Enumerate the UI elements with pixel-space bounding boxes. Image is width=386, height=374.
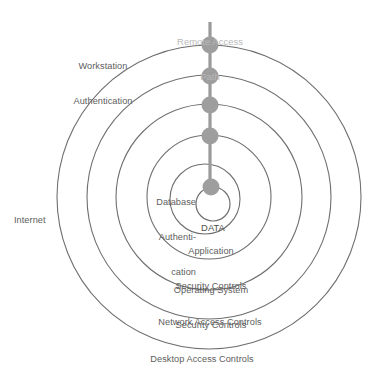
remote-access-path-line-2: Path [150,71,270,83]
label-internet: Internet [14,192,74,250]
remote-access-path-line-1: Remote Access [150,36,270,48]
path-node-application [202,128,219,145]
workstation-line-2: Authentication [48,96,158,108]
internet-line-1: Internet [14,215,74,227]
network-line-1: Network Access Controls [134,317,286,329]
path-node-database [203,179,220,196]
security-layers-diagram: Remote Access Path Workstation Authentic… [0,0,386,374]
workstation-line-1: Workstation [48,61,158,73]
label-desktop-access-controls: Desktop Access Controls [126,331,278,374]
desktop-line-1: Desktop Access Controls [126,354,278,366]
database-line-1: Database [126,197,196,209]
label-workstation-authentication: Workstation Authentication [48,38,158,131]
application-line-1: Application [151,246,271,258]
label-remote-access-path: Remote Access Path [150,12,270,106]
